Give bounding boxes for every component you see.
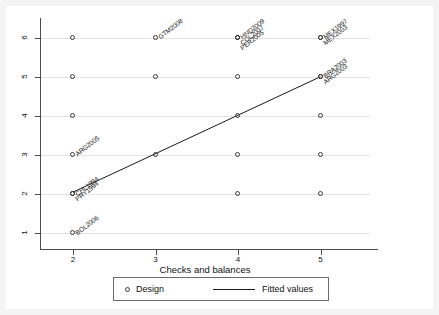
y-tick-label-1: 1 xyxy=(20,226,29,240)
data-point xyxy=(153,74,158,79)
legend-entry-design: Design xyxy=(125,278,164,300)
legend: Design Fitted values xyxy=(113,277,329,301)
line-segment-icon xyxy=(213,289,255,290)
y-tick-label-3: 3 xyxy=(20,147,29,161)
x-tick-label-4: 4 xyxy=(230,255,246,264)
data-point xyxy=(70,74,75,79)
scatter-plot-figure: 123456 2345 ARG2005CHL1994PRY1994BOL2006… xyxy=(0,0,439,315)
data-point xyxy=(235,113,240,118)
legend-label-design: Design xyxy=(136,284,164,294)
data-point xyxy=(235,152,240,157)
data-point xyxy=(235,74,240,79)
x-axis-line xyxy=(40,249,378,250)
legend-label-fitted: Fitted values xyxy=(262,284,313,294)
y-tick-label-4: 4 xyxy=(20,108,29,122)
data-point xyxy=(318,113,323,118)
data-point xyxy=(318,152,323,157)
fitted-values-line xyxy=(40,18,370,245)
y-tick-label-5: 5 xyxy=(20,69,29,83)
circle-marker-icon xyxy=(125,287,130,292)
legend-entry-fitted: Fitted values xyxy=(213,278,313,300)
data-point xyxy=(70,35,75,40)
data-point xyxy=(153,152,158,157)
y-tick-label-2: 2 xyxy=(20,187,29,201)
x-tick-label-5: 5 xyxy=(313,255,329,264)
x-axis-title: Checks and balances xyxy=(40,264,370,275)
data-point xyxy=(70,113,75,118)
y-tick-label-6: 6 xyxy=(20,30,29,44)
x-tick-label-3: 3 xyxy=(148,255,164,264)
x-tick-label-2: 2 xyxy=(65,255,81,264)
data-point xyxy=(318,191,323,196)
